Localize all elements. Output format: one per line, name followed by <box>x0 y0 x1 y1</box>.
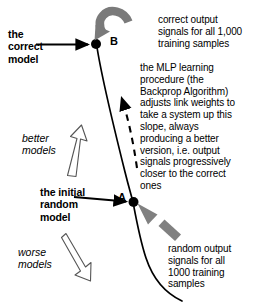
point-a-dot <box>129 197 139 207</box>
label-correct-output-signals: correct output signals for all 1,000 tra… <box>158 14 242 49</box>
outline-down-arrow <box>62 234 92 282</box>
label-the-initial-random-model: the initial random model <box>40 186 85 223</box>
thick-arrow-to-a <box>138 204 182 242</box>
label-random-output-signals: random output signals for all 1000 train… <box>168 243 231 290</box>
label-worse-models: worse models <box>18 246 52 271</box>
label-point-b: B <box>110 35 118 48</box>
label-the-correct-model: the correct model <box>8 28 43 65</box>
dashed-ascent-arrow <box>122 99 137 168</box>
label-point-a: A <box>118 191 126 204</box>
outline-up-arrow <box>68 125 88 177</box>
label-better-models: better models <box>22 132 56 157</box>
diagram-canvas: the correct model correct output signals… <box>0 0 261 306</box>
label-mlp-learning-procedure: the MLP learning procedure (the Backprop… <box>140 62 235 192</box>
point-b-dot <box>91 39 101 49</box>
